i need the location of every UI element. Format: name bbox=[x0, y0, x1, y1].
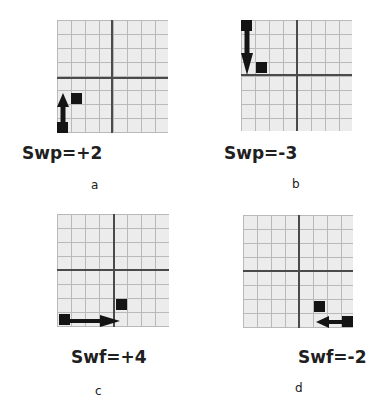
x-axis-d bbox=[243, 270, 353, 272]
formula-label-b: Swp=-3 bbox=[224, 143, 297, 163]
x-axis-c bbox=[57, 269, 169, 271]
start-square-b bbox=[241, 20, 252, 31]
panel-letter-a: a bbox=[91, 178, 98, 192]
arrow-up-icon bbox=[56, 93, 70, 123]
x-axis-b bbox=[241, 74, 352, 76]
panel-letter-b: b bbox=[292, 177, 300, 191]
end-square-c bbox=[116, 299, 127, 310]
panel-letter-c: c bbox=[95, 384, 102, 398]
end-square-b bbox=[256, 62, 267, 73]
formula-label-a: Swp=+2 bbox=[22, 143, 102, 163]
x-axis-a bbox=[57, 77, 168, 79]
start-square-c bbox=[59, 314, 70, 325]
formula-label-d: Swf=-2 bbox=[298, 347, 366, 367]
arrow-left-icon bbox=[316, 316, 344, 328]
formula-label-c: Swf=+4 bbox=[71, 347, 147, 367]
start-square-a bbox=[57, 122, 68, 133]
end-square-d bbox=[314, 301, 325, 312]
arrow-right-icon bbox=[70, 314, 120, 328]
panel-letter-d: d bbox=[295, 381, 303, 395]
arrow-down-icon bbox=[240, 31, 254, 75]
end-square-a bbox=[71, 93, 82, 104]
